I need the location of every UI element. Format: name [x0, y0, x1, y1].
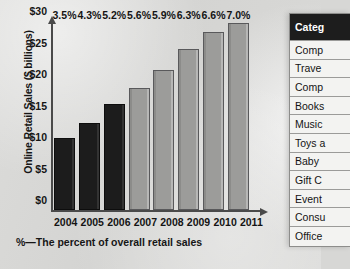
- y-tick-label-25: $25: [29, 37, 47, 49]
- chart-footnote: %—The percent of overall retail sales: [16, 236, 202, 248]
- x-axis-label: 2008: [160, 216, 181, 228]
- y-axis-line: [51, 23, 53, 212]
- category-table: Categ CompTraveCompBooksMusicToys aBabyG…: [289, 13, 350, 247]
- bar-value-label: 7.0%: [226, 9, 250, 21]
- bar: [178, 49, 199, 210]
- bar: [228, 23, 249, 210]
- table-header-category: Categ: [290, 14, 350, 40]
- bar-value-label: 5.6%: [127, 9, 151, 21]
- table-body: CompTraveCompBooksMusicToys aBabyGift CE…: [290, 40, 350, 245]
- table-row[interactable]: Consu: [290, 207, 350, 226]
- x-axis-label: 2010: [213, 216, 234, 228]
- table-row[interactable]: Baby: [290, 152, 350, 171]
- bar-value-label: 4.3%: [77, 9, 101, 21]
- y-tick-label-15: $15: [29, 100, 47, 112]
- x-axis-arrow-icon: [260, 208, 268, 216]
- bar-value-label: 5.2%: [102, 9, 126, 21]
- bar-slot: 7.0%: [228, 23, 249, 210]
- y-tick-label-0: $0: [35, 194, 47, 206]
- bar-slot: 6.6%: [203, 23, 224, 210]
- y-tick-label-30: $30: [29, 5, 47, 17]
- table-row[interactable]: Comp: [290, 77, 350, 96]
- table-row[interactable]: Office: [290, 226, 350, 245]
- bar-slot: 4.3%: [79, 23, 100, 210]
- bar-value-label: 5.9%: [152, 9, 176, 21]
- table-row[interactable]: Trave: [290, 59, 350, 78]
- x-axis-label: 2011: [240, 216, 261, 228]
- bar-chart-figure: Online Retail Sales ($ billions) $30 $25…: [0, 0, 278, 269]
- bar-value-label: 6.3%: [177, 9, 201, 21]
- y-tick-label-10: $10: [29, 131, 47, 143]
- bar: [54, 138, 75, 210]
- bar-slot: 3.5%: [54, 23, 75, 210]
- bar-slot: 5.6%: [129, 23, 150, 210]
- bar: [203, 32, 224, 210]
- x-axis-label: 2004: [54, 216, 75, 228]
- table-row[interactable]: Comp: [290, 40, 350, 59]
- bar: [129, 88, 150, 210]
- bar-slot: 6.3%: [178, 23, 199, 210]
- table-row[interactable]: Toys a: [290, 133, 350, 152]
- bar-slot: 5.9%: [153, 23, 174, 210]
- bar-series: 3.5%4.3%5.2%5.6%5.9%6.3%6.6%7.0%: [54, 23, 249, 210]
- x-axis-label: 2006: [107, 216, 128, 228]
- x-axis-tick-labels: 20042005200620072008200920102011: [54, 216, 261, 228]
- bar-slot: 5.2%: [104, 23, 125, 210]
- bar-value-label: 6.6%: [202, 9, 226, 21]
- table-row[interactable]: Music: [290, 114, 350, 133]
- table-row[interactable]: Books: [290, 96, 350, 115]
- bar-value-label: 3.5%: [53, 9, 77, 21]
- y-tick-label-20: $20: [29, 68, 47, 80]
- x-axis-label: 2007: [134, 216, 155, 228]
- x-axis-label: 2009: [187, 216, 208, 228]
- bar: [104, 104, 125, 210]
- bar: [153, 70, 174, 210]
- table-row[interactable]: Gift C: [290, 170, 350, 189]
- bar: [79, 123, 100, 210]
- table-row[interactable]: Event: [290, 189, 350, 208]
- x-axis-line: [51, 210, 261, 212]
- plot-area: $30 $25 $20 $15 $10 $5 $0 3.5%4.3%5.2%5.…: [51, 23, 261, 212]
- y-tick-label-5: $5: [35, 163, 47, 175]
- x-axis-label: 2005: [81, 216, 102, 228]
